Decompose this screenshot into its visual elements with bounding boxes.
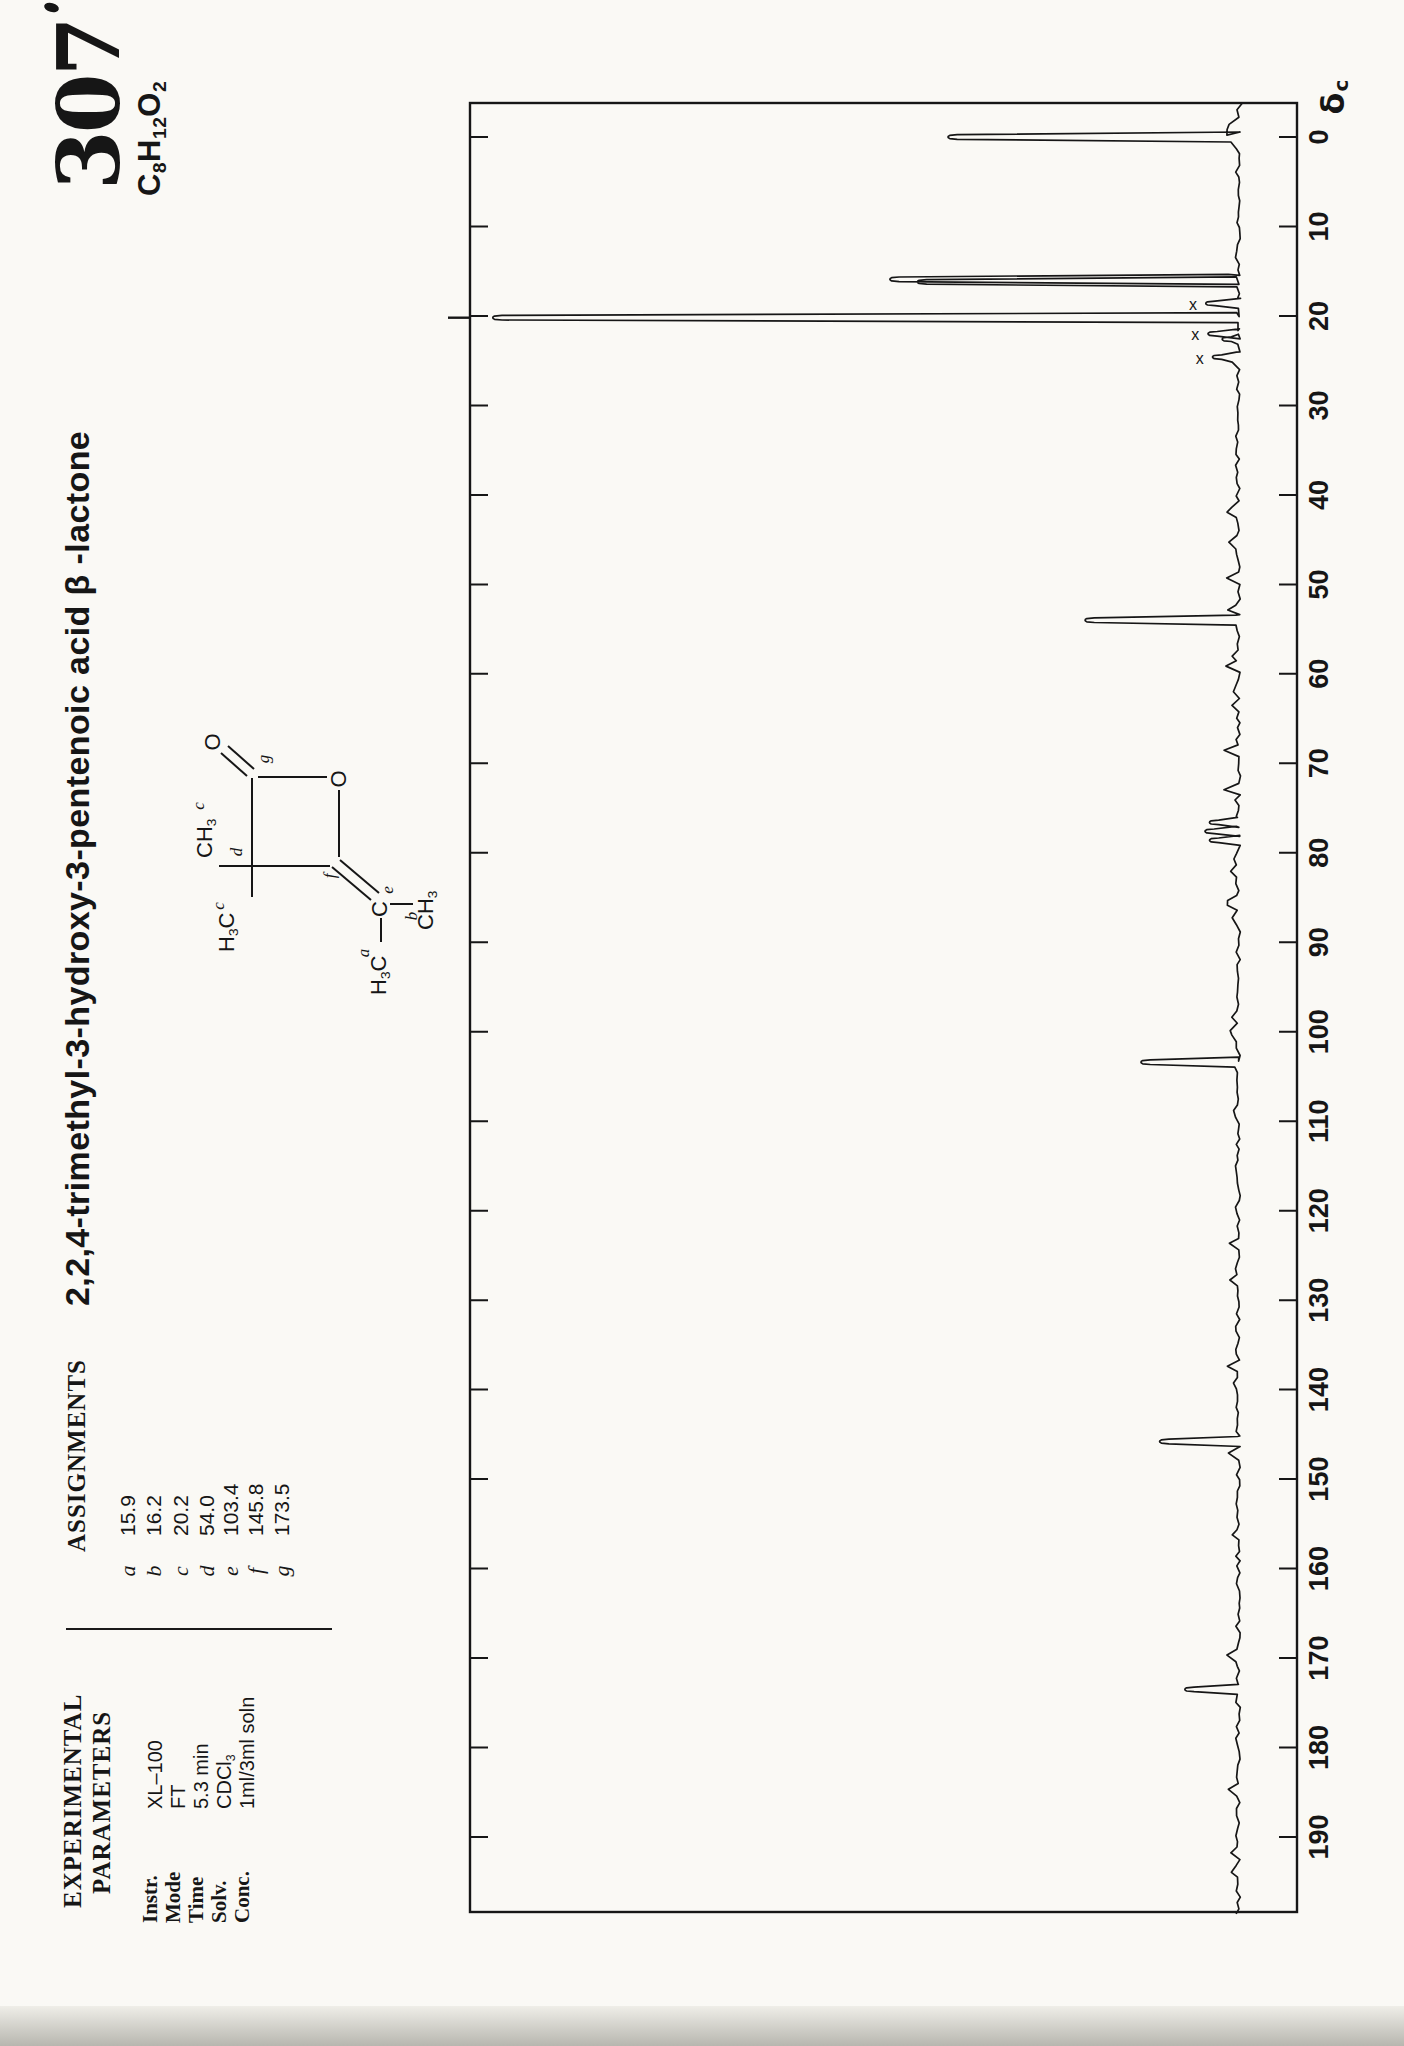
bond-carbonyl-1	[221, 753, 247, 776]
param-value-3: 5.3 min	[191, 1743, 211, 1809]
page-edge-shadow	[0, 2006, 1404, 2046]
axis-tick-label-140: 140	[1304, 1367, 1334, 1412]
position-label-a: a	[355, 949, 372, 958]
assignment-letter-d: d	[196, 1566, 218, 1577]
axis-tick-label-10: 10	[1304, 211, 1334, 241]
param-label-5: Conc.	[232, 1871, 253, 1923]
param-label-1: Instr.	[140, 1875, 161, 1923]
axis-tick-label-30: 30	[1304, 390, 1334, 420]
axis-tick-label-50: 50	[1304, 569, 1334, 599]
axis-tick-label-20: 20	[1304, 301, 1334, 331]
param-value-1: XL–100	[145, 1740, 165, 1809]
position-label-b: b	[403, 912, 420, 921]
param-value-2: FT	[168, 1785, 188, 1809]
axis-unit-label: δc	[1314, 80, 1353, 115]
assignment-letter-g: g	[271, 1566, 293, 1577]
param-value-4: CDCl3	[214, 1754, 237, 1809]
axis-tick-label-110: 110	[1304, 1099, 1334, 1143]
assignment-value-b: 16.2	[143, 1495, 164, 1536]
methyl-c-left-label: H3C	[216, 913, 241, 952]
scan-artifact	[43, 1, 60, 14]
position-label-e: e	[379, 886, 396, 894]
ene-carbon-label: C	[369, 901, 391, 917]
param-label-2: Mode	[163, 1872, 184, 1923]
position-label-d: d	[228, 848, 245, 857]
axis-tick-label-0: 0	[1304, 129, 1334, 144]
axis-tick-label-130: 130	[1304, 1278, 1334, 1323]
assignment-value-a: 15.9	[117, 1495, 138, 1536]
assignment-value-f: 145.8	[245, 1483, 266, 1536]
position-label-f: f	[321, 874, 338, 879]
assignment-value-g: 173.5	[271, 1483, 292, 1536]
impurity-mark-3: x	[1196, 350, 1204, 367]
impurity-mark-1: x	[1189, 296, 1197, 313]
methyl-c-top-label: CH3	[194, 819, 219, 858]
axis-tick-label-70: 70	[1304, 748, 1334, 778]
spectrum-trace	[493, 104, 1242, 1914]
assignment-value-d: 54.0	[196, 1495, 217, 1536]
assignment-letter-a: a	[117, 1566, 139, 1577]
axis-tick-label-90: 90	[1304, 927, 1334, 957]
axis-tick-label-180: 180	[1304, 1725, 1334, 1770]
scanned-page: 307 C8H12O2 2,2,4-trimethyl-3-hydroxy-3-…	[0, 0, 1404, 2046]
carbonyl-oxygen-label: O	[202, 733, 224, 750]
axis-tick-label-160: 160	[1304, 1546, 1334, 1591]
axis-tick-label-190: 190	[1304, 1814, 1334, 1859]
position-label-c-top: c	[190, 802, 207, 810]
bond-f-e-1	[332, 867, 371, 900]
methyl-b-label: CH3	[415, 891, 440, 930]
assignment-letter-f: f	[245, 1568, 267, 1574]
assignment-letter-e: e	[220, 1566, 242, 1576]
chemical-structure	[185, 720, 465, 1010]
param-label-3: Time	[186, 1877, 207, 1923]
axis-tick-label-40: 40	[1304, 480, 1334, 510]
right-axis-ticks	[1279, 137, 1297, 1837]
axis-tick-label-170: 170	[1304, 1636, 1334, 1681]
assignments-heading: ASSIGNMENTS	[64, 1359, 89, 1552]
nmr-spectrum-plot: 0102030405060708090100110120130140150160…	[440, 70, 1404, 1940]
experimental-heading-line1: EXPERIMENTAL	[60, 1694, 85, 1908]
divider-line	[66, 1628, 332, 1630]
assignment-value-e: 103.4	[220, 1483, 241, 1536]
bond-f-e-2	[340, 860, 379, 893]
assignment-letter-b: b	[143, 1566, 165, 1577]
plot-frame	[470, 103, 1297, 1912]
ring-oxygen-label: O	[328, 770, 350, 787]
experimental-heading-line2: PARAMETERS	[89, 1711, 114, 1894]
axis-tick-label-60: 60	[1304, 659, 1334, 689]
methyl-a-label: H3C	[368, 956, 393, 995]
bond-carbonyl-2	[228, 746, 254, 769]
compound-title: 2,2,4-trimethyl-3-hydroxy-3-pentenoic ac…	[60, 431, 94, 1306]
axis-tick-label-80: 80	[1304, 838, 1334, 868]
position-label-g: g	[255, 755, 272, 764]
axis-tick-label-150: 150	[1304, 1457, 1334, 1502]
catalog-number: 307	[46, 19, 132, 190]
molecular-formula: C8H12O2	[134, 81, 169, 196]
left-axis-ticks	[470, 137, 488, 1837]
assignment-letter-c: c	[170, 1566, 192, 1576]
param-value-5: 1ml/3ml soln	[237, 1697, 257, 1809]
assignment-value-c: 20.2	[170, 1495, 191, 1536]
param-label-4: Solv.	[209, 1880, 230, 1923]
axis-tick-label-100: 100	[1304, 1009, 1334, 1054]
impurity-mark-2: x	[1191, 326, 1199, 343]
position-label-c-left: c	[210, 902, 227, 910]
axis-tick-label-120: 120	[1304, 1188, 1334, 1233]
